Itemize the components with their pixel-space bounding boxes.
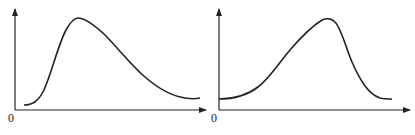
figure: 0 0 — [0, 0, 415, 135]
charts-svg — [0, 0, 415, 135]
right-origin-label: 0 — [211, 112, 217, 124]
left-curve — [24, 18, 200, 105]
right-curve — [219, 19, 392, 99]
left-chart — [15, 9, 206, 110]
right-chart — [219, 9, 410, 110]
left-origin-label: 0 — [8, 112, 14, 124]
